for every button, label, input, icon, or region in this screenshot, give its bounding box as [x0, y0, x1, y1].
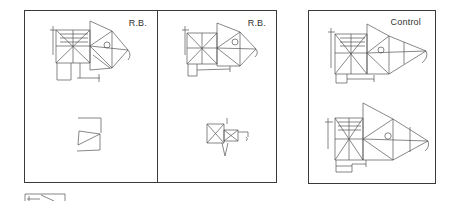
- rb-2-copy-drawing: [182, 23, 257, 76]
- control-copy-drawing: [328, 24, 427, 83]
- rb-2-recall-drawing: [207, 118, 248, 156]
- reference-figure-thumbnail: [25, 194, 65, 201]
- rb-1-recall-drawing: [77, 118, 101, 151]
- control-recall-drawing: [325, 103, 429, 172]
- drawings-layer: [0, 0, 456, 201]
- rb-1-copy-drawing: [50, 21, 130, 82]
